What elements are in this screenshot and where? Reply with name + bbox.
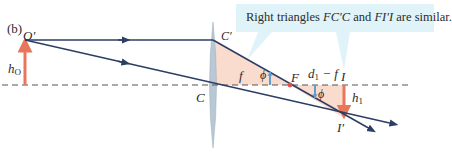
callout-text: Right triangles FC′C and FI′I are simila… <box>246 10 452 25</box>
image-height-subscript: 1 <box>359 96 364 106</box>
label-angle-1: ϕ <box>260 69 266 81</box>
label-image-height: h1 <box>352 91 363 106</box>
label-image-top: I′ <box>337 121 344 134</box>
label-distance: d1 − f <box>308 67 338 82</box>
label-object-top: O′ <box>23 29 35 42</box>
label-focal-point: F <box>291 71 299 84</box>
distance-minus-f: − f <box>319 66 338 81</box>
ray-through-center <box>25 40 394 124</box>
label-focal-length: f <box>239 69 243 82</box>
label-lens-center: C <box>196 91 205 104</box>
callout-triangle-2: FI′I <box>374 10 393 24</box>
callout-triangle-1: FC′C <box>323 10 350 24</box>
callout-pointer-right <box>336 32 350 70</box>
label-angle-2: ϕ <box>318 88 324 100</box>
object-height-subscript: O <box>15 67 22 77</box>
panel-label: (b) <box>7 22 22 35</box>
callout-mid: and <box>350 10 374 24</box>
label-lens-top: C′ <box>221 30 232 42</box>
ray-center-arrow <box>118 61 126 63</box>
callout-suffix: are similar. <box>393 10 452 24</box>
label-object-height: hO <box>8 62 21 77</box>
callout-prefix: Right triangles <box>246 10 323 24</box>
label-image-point: I <box>341 70 345 83</box>
callout-pointer-left <box>247 32 272 60</box>
